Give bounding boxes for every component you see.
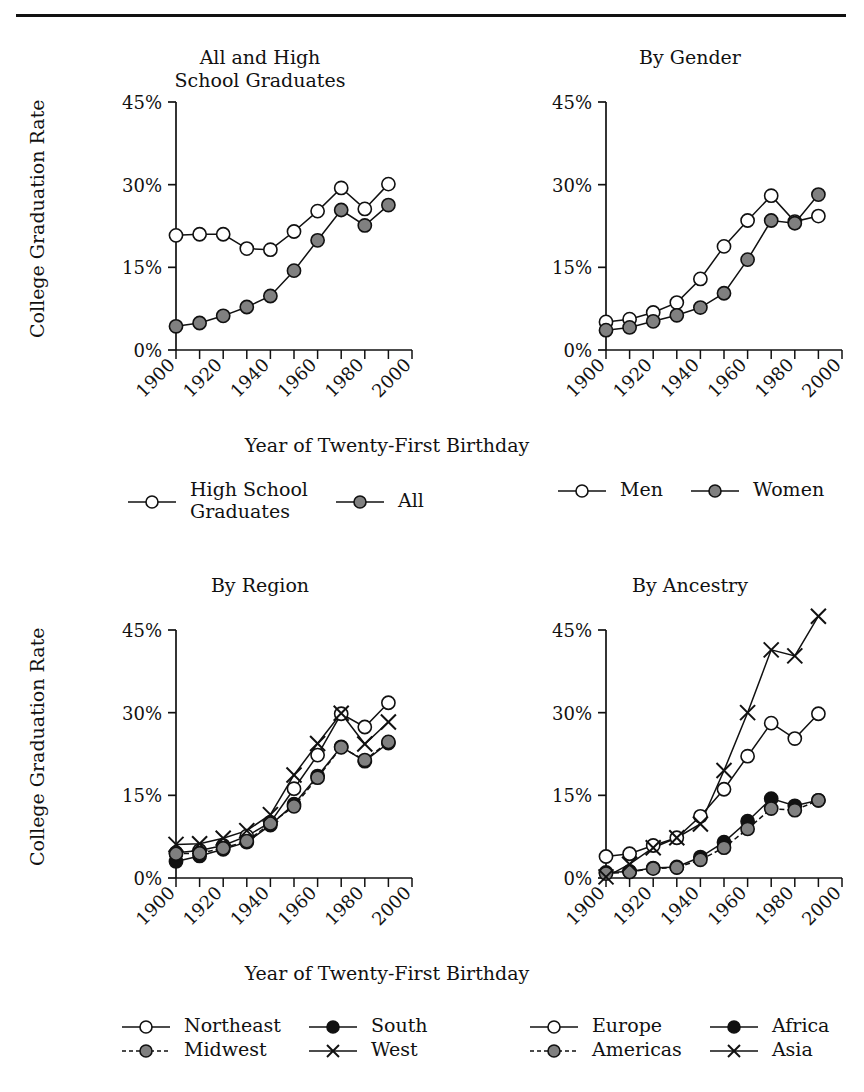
x-tick-label-group: 2000 xyxy=(798,354,845,401)
legend-symbol-gray-circle-dashed xyxy=(528,1038,592,1062)
x-tick-label: 1940 xyxy=(226,882,273,929)
x-tick-label-group: 1940 xyxy=(226,354,273,401)
marker-circle xyxy=(694,853,707,866)
x-tick-label-group: 1900 xyxy=(562,354,609,401)
series-line-all xyxy=(176,205,388,326)
y-tick-label: 30% xyxy=(552,175,592,196)
x-tick-label-group: 1960 xyxy=(273,354,320,401)
legend-label-text: West xyxy=(371,1038,418,1060)
series-line-northeast xyxy=(176,703,388,853)
legend-label-text: Africa xyxy=(772,1014,830,1036)
legend-symbol-open-circle xyxy=(120,1014,184,1038)
x-tick-label: 1920 xyxy=(179,354,226,401)
panel-title-line1: By Ancestry xyxy=(530,574,850,597)
marker-circle xyxy=(169,320,182,333)
marker-circle xyxy=(335,741,348,754)
x-tick-label: 2000 xyxy=(368,354,415,401)
x-axis-label-top: Year of Twenty-First Birthday xyxy=(172,434,602,456)
x-axis-label-bottom: Year of Twenty-First Birthday xyxy=(172,962,602,984)
marker-circle xyxy=(670,296,683,309)
chart-by-gender: 0%15%30%45%190019201940196019802000 xyxy=(530,92,850,402)
legend-symbol-gray-circle xyxy=(334,478,398,524)
legend-symbol-cross xyxy=(708,1038,772,1062)
series-markers-northeast xyxy=(169,696,395,859)
x-tick-label-group: 1960 xyxy=(273,882,320,929)
marker-circle xyxy=(717,841,730,854)
series-markers-asia xyxy=(599,609,826,885)
legend-label-text: Europe xyxy=(592,1014,662,1036)
plot-area-1: 0%15%30%45%190019201940196019802000 xyxy=(100,92,420,402)
panel-all-and-high-school: All and High School Graduates 0%15%30%45… xyxy=(100,46,420,376)
legend-symbol-open-circle xyxy=(126,478,190,524)
marker-circle xyxy=(647,862,660,875)
series-line-africa xyxy=(606,799,818,873)
x-tick-label-group: 1940 xyxy=(656,354,703,401)
x-tick-label: 1980 xyxy=(320,354,367,401)
y-tick-label: 30% xyxy=(552,703,592,724)
x-tick-label-group: 2000 xyxy=(368,354,415,401)
x-tick-label: 1920 xyxy=(609,882,656,929)
x-tick-label-group: 1900 xyxy=(132,354,179,401)
marker-circle xyxy=(382,178,395,191)
marker-circle xyxy=(670,861,683,874)
legend-label-text: Midwest xyxy=(184,1038,267,1060)
marker-circle xyxy=(311,749,324,762)
series-line-europe xyxy=(606,714,818,857)
legend-label-text: Men xyxy=(620,478,663,500)
x-tick-label-group: 1920 xyxy=(609,882,656,929)
marker-circle xyxy=(240,300,253,313)
series-markers-all xyxy=(169,198,395,332)
figure-page: College Graduation Rate All and High Sch… xyxy=(0,0,864,1092)
marker-circle xyxy=(647,839,660,852)
panel-title-line2: School Graduates xyxy=(100,69,420,92)
series-markers-high-school-graduates xyxy=(169,178,395,257)
legend-label-south: South xyxy=(371,1014,454,1038)
legend-symbol-black-circle xyxy=(307,1014,371,1038)
x-tick-label: 1960 xyxy=(273,354,320,401)
legend-panel-3: Northeast South xyxy=(120,1014,454,1062)
marker-circle xyxy=(694,301,707,314)
panel-title-line1: All and High xyxy=(100,46,420,69)
y-tick-label: 0% xyxy=(563,340,592,361)
plot-area-2: 0%15%30%45%190019201940196019802000 xyxy=(530,92,850,402)
legend-label-text: High School xyxy=(190,478,308,500)
plot-area-4: 0%15%30%45%190019201940196019802000 xyxy=(530,620,850,930)
legend-panel-1: High School Graduates All xyxy=(126,478,450,524)
y-tick-label: 45% xyxy=(122,620,162,641)
y-axis-label-bottom: College Graduation Rate xyxy=(26,627,48,866)
x-tick-label-group: 1980 xyxy=(320,354,367,401)
x-tick-label-group: 1920 xyxy=(609,354,656,401)
panel-title-line1: By Region xyxy=(100,574,420,597)
legend-label-text: South xyxy=(371,1014,428,1036)
x-tick-label-group: 1940 xyxy=(656,882,703,929)
x-tick-label: 1980 xyxy=(320,882,367,929)
marker-circle xyxy=(647,315,660,328)
marker-circle xyxy=(311,771,324,784)
marker-circle xyxy=(812,209,825,222)
marker-circle xyxy=(382,198,395,211)
marker-circle xyxy=(287,800,300,813)
top-rule xyxy=(16,14,846,17)
y-tick-label: 15% xyxy=(552,785,592,806)
series-line-men xyxy=(606,196,818,322)
marker-circle xyxy=(193,228,206,241)
legend-symbol-black-circle xyxy=(708,1014,772,1038)
legend-label-midwest: Midwest xyxy=(184,1038,307,1062)
series-line-midwest xyxy=(176,742,388,854)
x-tick-label: 1960 xyxy=(273,882,320,929)
marker-circle xyxy=(788,732,801,745)
chart-all-and-high-school-graduates: 0%15%30%45%190019201940196019802000 xyxy=(100,92,420,402)
panel-by-gender: By Gender 0%15%30%45%1900192019401960198… xyxy=(530,46,850,376)
marker-circle xyxy=(311,205,324,218)
series-line-americas xyxy=(606,800,818,873)
x-tick-label: 1900 xyxy=(562,882,609,929)
x-tick-label-group: 1900 xyxy=(562,882,609,929)
y-tick-label: 0% xyxy=(133,340,162,361)
y-tick-label: 30% xyxy=(122,175,162,196)
x-tick-label: 1960 xyxy=(703,354,750,401)
marker-circle xyxy=(694,810,707,823)
x-tick-label: 1920 xyxy=(179,882,226,929)
marker-circle xyxy=(765,717,778,730)
legend-symbol-open-circle xyxy=(528,1014,592,1038)
marker-circle xyxy=(765,214,778,227)
